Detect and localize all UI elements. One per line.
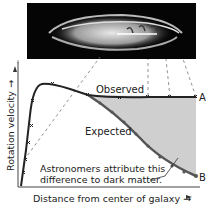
- annotation-line-2: difference to dark matter.: [40, 174, 162, 185]
- y-axis-label: Rotation velocity →: [5, 76, 16, 176]
- observed-label: Observed: [96, 84, 144, 95]
- annotation-line-1: Astronomers attribute this: [40, 163, 165, 174]
- curve-a-label: A: [199, 92, 206, 103]
- expected-label: Expected: [85, 126, 132, 137]
- x-axis-label: Distance from center of galaxy →: [33, 193, 191, 204]
- curve-b-label: B: [199, 172, 206, 183]
